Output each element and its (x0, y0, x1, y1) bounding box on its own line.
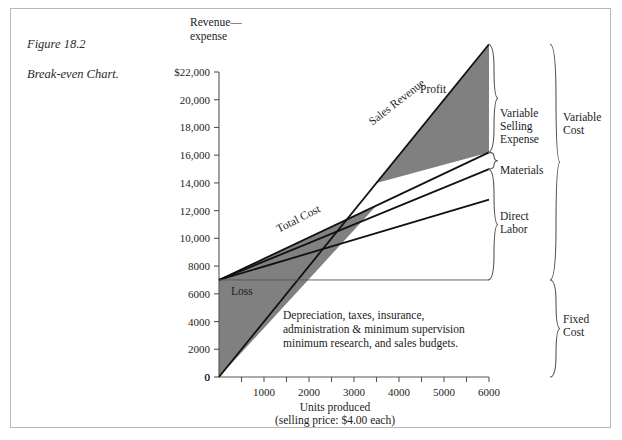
fixed-note-line3: minimum research, and sales budgets. (283, 337, 458, 350)
y-tick-label: 12,000 (180, 205, 211, 217)
y-axis-title-line1: Revenue— (190, 16, 242, 28)
bracket-fixed-cost (550, 280, 560, 377)
y-axis-ticks (214, 72, 219, 377)
direct-labor-label-l1: Direct (500, 210, 530, 222)
y-axis-tick-labels: 0200040006000800010,00012,00014,00016,00… (174, 66, 210, 383)
series-line-materials (219, 169, 489, 280)
y-tick-label: 18,000 (180, 121, 211, 133)
y-tick-label: $22,000 (174, 66, 210, 78)
variable-selling-expense-label-l2: Selling (500, 120, 533, 133)
x-axis-ticks (242, 377, 490, 382)
figure-page: Figure 18.2 Break-even Chart. 0200040006… (0, 0, 622, 440)
fixed-cost-label-l2: Cost (563, 326, 585, 338)
x-tick-label: 0 (205, 371, 211, 383)
variable-cost-label-l1: Variable (563, 111, 601, 123)
y-tick-label: 2000 (188, 343, 211, 355)
y-tick-label: 14,000 (180, 177, 211, 189)
y-axis-title-line2: expense (190, 30, 227, 43)
sales-revenue-label: Sales Revenue (366, 76, 426, 127)
direct-labor-label-l2: Labor (500, 223, 528, 235)
y-tick-label: 20,000 (180, 94, 211, 106)
total-cost-label: Total Cost (274, 202, 322, 235)
series-line-total-cost (219, 152, 489, 280)
y-tick-label: 8000 (188, 260, 211, 272)
y-tick-label: 16,000 (180, 149, 211, 161)
x-axis-subtitle: (selling price: $4.00 each) (275, 414, 395, 427)
bracket-direct-labor (488, 169, 498, 280)
y-tick-label: 6000 (188, 288, 211, 300)
loss-label: Loss (231, 285, 253, 297)
fixed-cost-note: Depreciation, taxes, insurance, administ… (283, 309, 465, 350)
bracket-variable-selling-expense (488, 44, 498, 152)
variable-cost-label-l2: Cost (563, 124, 585, 136)
x-tick-label: 1000 (253, 386, 276, 398)
x-tick-label: 5000 (433, 386, 456, 398)
profit-label: Profit (420, 83, 447, 95)
bracket-materials (488, 152, 498, 169)
fixed-cost-label-l1: Fixed (563, 313, 589, 325)
variable-selling-expense-label-l1: Variable (500, 107, 538, 119)
fixed-note-line2: administration & minimum supervision (283, 323, 465, 336)
y-tick-label: 10,000 (180, 232, 211, 244)
x-axis-tick-labels: 0100020003000400050006000 (205, 371, 501, 398)
y-tick-label: 4000 (188, 316, 211, 328)
x-tick-label: 2000 (298, 386, 321, 398)
x-tick-label: 4000 (388, 386, 411, 398)
x-tick-label: 6000 (478, 386, 501, 398)
x-axis-title: Units produced (300, 401, 371, 414)
bracket-variable-cost (550, 44, 560, 280)
variable-selling-expense-label-l3: Expense (500, 133, 539, 146)
fixed-note-line1: Depreciation, taxes, insurance, (283, 309, 425, 322)
x-tick-label: 3000 (343, 386, 366, 398)
break-even-chart: 0200040006000800010,00012,00014,00016,00… (0, 0, 622, 440)
materials-label: Materials (500, 164, 544, 176)
